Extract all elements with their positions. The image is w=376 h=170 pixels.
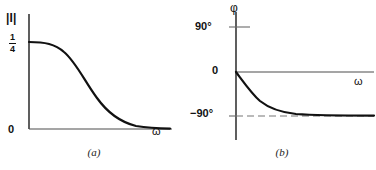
panel-a-origin-label: 0 (8, 124, 14, 135)
panel-a-curve (29, 42, 170, 129)
panel-a-magnitude-plot: |I| 1 4 0 ω (a) (0, 0, 188, 170)
panel-b-ytick-plus90-label: 90° (195, 21, 212, 32)
panel-a-y-axis-label: |I| (6, 12, 17, 24)
panel-b-svg (188, 0, 376, 170)
panel-a-ytick-numerator: 1 (9, 33, 16, 42)
panel-b-x-axis-label: ω (354, 76, 363, 87)
panel-b-ytick-minus90-label: −90° (190, 108, 213, 119)
panel-a-ytick-fraction: 1 4 (9, 33, 16, 55)
panel-b-caption: (b) (188, 146, 376, 158)
panel-a-caption: (a) (0, 146, 188, 158)
panel-b-phase-plot: φ 90° 0 −90° ω (b) (188, 0, 376, 170)
panel-b-y-axis-label: φ (230, 2, 238, 14)
panel-b-ytick-zero-label: 0 (212, 65, 218, 76)
panel-a-svg (0, 0, 188, 170)
panel-a-x-axis-label: ω (152, 126, 161, 137)
figure-root: |I| 1 4 0 ω (a) φ 90° 0 −90° ω (0, 0, 376, 170)
panel-a-ytick-denominator: 4 (9, 45, 16, 54)
